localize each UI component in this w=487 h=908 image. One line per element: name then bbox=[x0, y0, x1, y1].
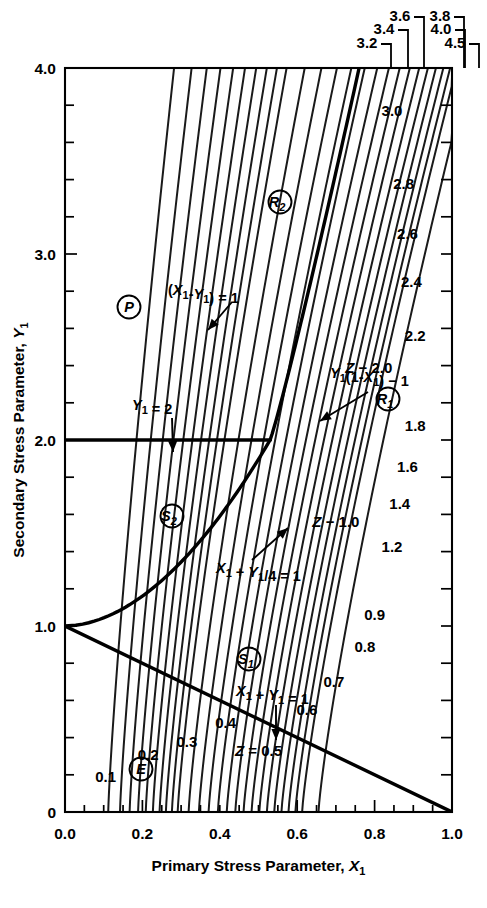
x-tick-label: 0.0 bbox=[54, 825, 76, 842]
arrow-x1-plus-y1-head bbox=[271, 729, 280, 740]
y-tick-label: 0 bbox=[47, 804, 56, 821]
contour-value-label: 2.2 bbox=[405, 327, 426, 344]
top-contour-label: 4.5 bbox=[445, 34, 466, 51]
x1-plus-y1-eq-1: X1 + Y1 = 1 bbox=[235, 683, 309, 707]
contour-value-label: 0.3 bbox=[176, 733, 197, 750]
contour-value-label: Z − 1.0 bbox=[311, 513, 359, 530]
contour-value-label: 1.8 bbox=[405, 417, 426, 434]
x-tick-label: 0.8 bbox=[364, 825, 386, 842]
contour-value-label: 1.2 bbox=[382, 538, 403, 555]
top-contour-label: 3.6 bbox=[390, 7, 411, 24]
boundary-x1-plus-y1-over-4 bbox=[65, 440, 270, 626]
y-tick-label: 1.0 bbox=[34, 618, 56, 635]
x-tick-label: 1.0 bbox=[441, 825, 463, 842]
x-axis-title: Primary Stress Parameter, X1 bbox=[152, 857, 366, 877]
contour-value-label: 2.8 bbox=[393, 175, 414, 192]
y-tick-label: 3.0 bbox=[34, 246, 56, 263]
contour-value-label: 2.4 bbox=[401, 273, 423, 290]
leader-line bbox=[398, 30, 408, 68]
y-axis-title: Secondary Stress Parameter, Y1 bbox=[10, 322, 30, 557]
contour-line bbox=[318, 68, 452, 812]
region-E: E bbox=[136, 761, 147, 777]
arrow-y1-eq-2-head bbox=[168, 441, 177, 452]
leader-line bbox=[414, 17, 424, 68]
region-P: P bbox=[124, 299, 134, 315]
contour-value-label: Z = 0.5 bbox=[234, 742, 282, 759]
contour-value-label: 0.8 bbox=[354, 638, 375, 655]
leader-line bbox=[469, 44, 479, 68]
figure-container: 0.00.20.40.60.81.001.02.03.04.00.10.20.3… bbox=[0, 0, 487, 908]
stress-parameter-contour-chart: 0.00.20.40.60.81.001.02.03.04.00.10.20.3… bbox=[0, 0, 487, 908]
x-tick-label: 0.6 bbox=[286, 825, 308, 842]
y-tick-label: 4.0 bbox=[34, 60, 56, 77]
contour-value-label: 0.9 bbox=[364, 606, 385, 623]
top-contour-labels: 3.23.43.63.84.04.5 bbox=[357, 7, 479, 68]
contour-value-label: 1.4 bbox=[389, 495, 411, 512]
leader-line bbox=[381, 44, 391, 68]
contour-value-label: 0.4 bbox=[215, 714, 237, 731]
contour-value-label: 0.1 bbox=[95, 768, 116, 785]
contour-value-label: 2.6 bbox=[397, 225, 418, 242]
x-tick-label: 0.4 bbox=[209, 825, 231, 842]
contour-value-label: 0.7 bbox=[324, 673, 345, 690]
contour-value-label: 3.0 bbox=[382, 102, 403, 119]
x-tick-label: 0.2 bbox=[132, 825, 154, 842]
y-tick-label: 2.0 bbox=[34, 432, 56, 449]
y1-1-minus-x1: Y1(1-X1) − 1 bbox=[330, 365, 409, 389]
contour-value-label: 1.6 bbox=[397, 458, 418, 475]
